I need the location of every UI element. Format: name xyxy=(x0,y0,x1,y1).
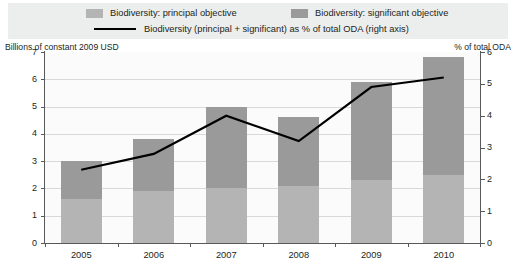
y-tick-left xyxy=(41,52,45,53)
x-tick xyxy=(190,243,191,247)
y-tick-left xyxy=(41,79,45,80)
y-tick-label-right: 1 xyxy=(487,207,503,216)
y-tick-label-left: 0 xyxy=(21,239,37,248)
legend-row-bottom: Biodiversity (principal + significant) a… xyxy=(8,22,508,36)
y-tick-right xyxy=(481,243,485,244)
legend-item-principal: Biodiversity: principal objective xyxy=(86,6,237,20)
y-tick-right xyxy=(481,116,485,117)
y-tick-label-left: 1 xyxy=(21,211,37,220)
chart-legend: Biodiversity: principal objective Biodiv… xyxy=(8,3,508,39)
y-tick-right xyxy=(481,179,485,180)
legend-line-marker-icon xyxy=(94,28,136,30)
y-tick-label-right: 4 xyxy=(487,111,503,120)
y-tick-label-left: 6 xyxy=(21,75,37,84)
legend-row-top: Biodiversity: principal objective Biodiv… xyxy=(8,6,508,20)
legend-swatch-significant-icon xyxy=(291,9,308,18)
line-series-layer xyxy=(45,52,480,243)
x-tick-label: 2008 xyxy=(269,250,329,261)
legend-label-percent-line: Biodiversity (principal + significant) a… xyxy=(144,24,409,34)
x-tick-label: 2009 xyxy=(341,250,401,261)
y-tick-left xyxy=(41,134,45,135)
y-tick-left xyxy=(41,107,45,108)
y-tick-label-left: 5 xyxy=(21,102,37,111)
percent-of-oda-line xyxy=(81,77,444,169)
legend-label-significant: Biodiversity: significant objective xyxy=(315,8,448,18)
y-tick-label-right: 3 xyxy=(487,143,503,152)
x-tick xyxy=(335,243,336,247)
x-tick xyxy=(45,243,46,247)
y-tick-left xyxy=(41,188,45,189)
legend-item-percent-line: Biodiversity (principal + significant) a… xyxy=(94,22,409,36)
y-tick-label-left: 2 xyxy=(21,184,37,193)
y-tick-right xyxy=(481,148,485,149)
legend-label-principal: Biodiversity: principal objective xyxy=(110,8,237,18)
x-tick xyxy=(263,243,264,247)
y-tick-left xyxy=(41,243,45,244)
y-tick-label-right: 0 xyxy=(487,239,503,248)
y-tick-left xyxy=(41,216,45,217)
legend-item-significant: Biodiversity: significant objective xyxy=(291,6,448,20)
y-tick-right xyxy=(481,84,485,85)
x-tick-label: 2010 xyxy=(414,250,474,261)
y-tick-left xyxy=(41,161,45,162)
y-tick-label-right: 6 xyxy=(487,48,503,57)
y-tick-label-right: 5 xyxy=(487,79,503,88)
legend-swatch-principal-icon xyxy=(86,9,103,18)
y-tick-right xyxy=(481,52,485,53)
x-tick-label: 2006 xyxy=(124,250,184,261)
y-tick-label-right: 2 xyxy=(487,175,503,184)
y-tick-right xyxy=(481,211,485,212)
x-tick-label: 2005 xyxy=(51,250,111,261)
y-tick-label-left: 3 xyxy=(21,157,37,166)
x-tick-label: 2007 xyxy=(196,250,256,261)
y-tick-label-left: 4 xyxy=(21,129,37,138)
x-tick xyxy=(118,243,119,247)
y-tick-label-left: 7 xyxy=(21,48,37,57)
x-tick xyxy=(408,243,409,247)
chart-figure: Biodiversity: principal objective Biodiv… xyxy=(0,0,516,274)
x-tick xyxy=(480,243,481,247)
